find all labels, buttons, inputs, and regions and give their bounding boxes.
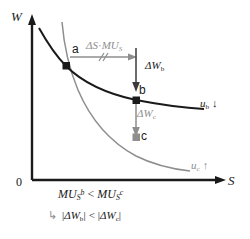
w-glyph: W (143, 107, 152, 119)
less-than-glyph-2: < (89, 209, 95, 221)
w-glyph: W (151, 59, 160, 71)
mu-superscript-c: c (120, 188, 123, 197)
point-c-label: c (141, 130, 147, 142)
figure-canvas (0, 0, 250, 239)
caption-line-1: MUSb<MUSc (58, 188, 123, 200)
point-b-label: b (139, 84, 146, 96)
caption-line-2: |ΔWb|<|ΔWc| (62, 210, 121, 221)
bar-close-2: | (119, 209, 121, 221)
mu-glyph: MU (102, 39, 119, 51)
delta-s-mu-label: ΔS·MUS (86, 40, 122, 51)
point-b (133, 97, 141, 105)
y-axis-label: W (11, 10, 22, 23)
curve-uc-label: uc↑ (191, 160, 208, 171)
w-glyph-1: W (71, 209, 80, 221)
delta-w-c-label: ΔWc (137, 108, 156, 119)
arrow-down-icon: ↓ (212, 97, 218, 109)
curve-uc (62, 22, 190, 171)
point-a (63, 62, 71, 70)
mu-glyph: MU (58, 187, 77, 201)
w-glyph-2: W (107, 209, 116, 221)
mu-glyph-2: MU (97, 187, 116, 201)
point-c (133, 134, 141, 142)
mu-superscript-b: b (81, 188, 85, 197)
mu-subscript: S (119, 45, 123, 53)
u-subscript: c (197, 165, 200, 173)
less-than-glyph: < (87, 187, 94, 201)
hook-arrow-icon: ↳ (48, 210, 57, 221)
u-subscript: b (206, 103, 210, 111)
x-axis-label: S (228, 174, 235, 187)
bar-close-1: | (83, 209, 85, 221)
point-a-label: a (72, 43, 79, 55)
x-axis-arrowhead (215, 176, 226, 184)
delta-s-arrow (70, 53, 137, 61)
arrow-up-icon: ↑ (203, 159, 209, 171)
indifference-curve-figure: W S 0 a b c ΔS·MUS ΔWb ΔWc ub↓ uc↑ MUSb<… (0, 0, 250, 239)
w-subscript: b (161, 65, 165, 73)
delta-w-b-label: ΔWb (145, 60, 164, 71)
w-subscript: c (153, 113, 156, 121)
origin-label: 0 (16, 176, 22, 188)
curve-ub-label: ub↓ (200, 98, 218, 109)
y-axis-arrowhead (28, 14, 36, 25)
